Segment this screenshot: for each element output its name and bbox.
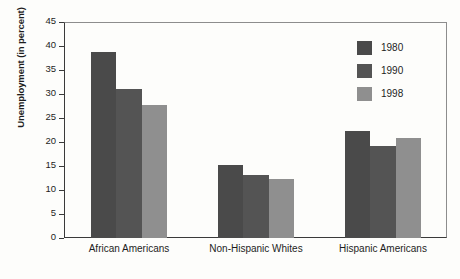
y-axis-tick: 0: [0, 238, 64, 239]
y-axis-tick: 20: [0, 142, 64, 143]
bar: [345, 131, 371, 238]
legend-swatch: [357, 41, 372, 55]
y-axis-tick-label: 20: [45, 135, 56, 146]
bar: [370, 146, 396, 238]
y-axis-tick: 5: [0, 214, 64, 215]
y-axis-tick: 15: [0, 166, 64, 167]
x-axis-label: Hispanic Americans: [320, 243, 447, 254]
y-axis-tick-label: 25: [45, 111, 56, 122]
x-axis-label: Non-Hispanic Whites: [193, 243, 320, 254]
legend-swatch: [357, 64, 372, 78]
y-axis-tick: 10: [0, 190, 64, 191]
x-axis-label: African Americans: [66, 243, 193, 254]
legend-item: 1990: [357, 59, 403, 82]
chart-legend: 198019901998: [357, 36, 403, 105]
y-axis-tick-label: 5: [51, 207, 56, 218]
legend-item: 1998: [357, 82, 403, 105]
legend-label: 1980: [381, 42, 403, 53]
y-axis-tick: 45: [0, 22, 64, 23]
legend-label: 1998: [381, 88, 403, 99]
y-axis-tick-label: 15: [45, 159, 56, 170]
y-axis-tick: 35: [0, 70, 64, 71]
bar: [243, 175, 269, 238]
bar: [142, 105, 168, 237]
y-axis-tick-label: 10: [45, 183, 56, 194]
y-axis-tick: 30: [0, 94, 64, 95]
y-axis-tick-label: 45: [45, 15, 56, 26]
bar: [91, 52, 117, 237]
legend-label: 1990: [381, 65, 403, 76]
y-axis-tick: 40: [0, 46, 64, 47]
legend-item: 1980: [357, 36, 403, 59]
bar: [218, 165, 244, 237]
legend-swatch: [357, 87, 372, 101]
y-axis-tick-label: 40: [45, 39, 56, 50]
bar: [396, 138, 422, 238]
y-axis-tick-label: 0: [51, 231, 56, 242]
y-axis-tick: 25: [0, 118, 64, 119]
bar-group: [218, 22, 295, 238]
y-axis-tick-label: 35: [45, 63, 56, 74]
chart-figure: Unemployment (in percent) 05101520253035…: [0, 0, 460, 279]
bar: [269, 179, 295, 237]
bar-group: [91, 22, 168, 238]
y-axis-tick-label: 30: [45, 87, 56, 98]
bar: [116, 89, 142, 237]
